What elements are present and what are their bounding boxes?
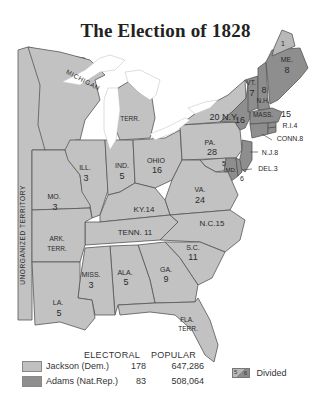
label-fla-terr: TERR.: [178, 325, 198, 332]
label-nc: N.C.15: [200, 219, 225, 228]
label-sc: S.C.: [186, 244, 200, 251]
label-me-jackson: 1: [281, 40, 285, 47]
label-ala: ALA.: [117, 269, 132, 276]
legend-popular: 508,064: [152, 376, 204, 386]
jackson-swatch: [22, 361, 42, 372]
label-ga-ev: 9: [163, 274, 168, 284]
label-md: MD.: [226, 167, 237, 173]
label-vt-ev: 7: [249, 88, 254, 98]
label-ri: R.I.4: [283, 122, 298, 129]
divided-swatch: 5 6: [232, 368, 250, 378]
label-ark: ARK.: [49, 235, 64, 242]
label-ark-terr: TERR.: [47, 245, 67, 252]
label-michigan-terr: TERR.: [120, 115, 140, 122]
label-sc-ev: 11: [188, 252, 197, 262]
adams-swatch: [22, 376, 42, 387]
label-va: VA.: [195, 186, 206, 193]
legend-electoral: 178: [122, 361, 146, 371]
label-del: DEL.3: [258, 165, 278, 172]
divided-swatch-a: 5: [234, 369, 237, 375]
legend-name: Jackson (Dem.): [46, 361, 109, 371]
label-ind: IND.: [115, 162, 129, 169]
label-ga: GA.: [160, 266, 172, 273]
label-nh: N.H.: [257, 97, 270, 104]
label-md-adams: 6: [240, 175, 244, 182]
us-map-1828: UNORGANIZED TERRITORY MICHIGAN TERR. 1 M…: [0, 0, 331, 402]
label-mass-ev: 15: [281, 109, 291, 119]
label-ill: ILL.: [79, 164, 91, 171]
label-miss-ev: 3: [88, 280, 93, 290]
label-unorganized-territory: UNORGANIZED TERRITORY: [19, 185, 26, 285]
label-ind-ev: 5: [119, 171, 124, 181]
label-fla: FLA.: [180, 316, 194, 323]
label-mo: MO.: [47, 193, 60, 200]
label-conn: CONN.8: [277, 135, 304, 142]
legend-divided: 5 6 Divided: [232, 367, 287, 378]
legend-col-popular: POPULAR: [151, 350, 196, 360]
label-la: LA.: [53, 299, 64, 306]
label-ala-ev: 5: [123, 277, 128, 287]
label-vt: VT.: [246, 79, 256, 86]
label-ny-adams: 16: [235, 115, 245, 125]
label-la-ev: 5: [56, 308, 61, 318]
legend-col-electoral: ELECTORAL: [84, 350, 140, 360]
legend-electoral: 83: [122, 376, 146, 386]
label-tenn: TENN. 11: [118, 228, 153, 237]
divided-label: Divided: [257, 368, 287, 378]
label-pa: PA.: [205, 139, 216, 146]
label-nj: N.J.8: [262, 149, 278, 156]
legend-name: Adams (Nat.Rep.): [46, 376, 118, 386]
label-va-ev: 24: [195, 195, 205, 205]
label-nh-ev: 8: [261, 85, 266, 95]
label-me-ev: 8: [284, 65, 289, 75]
legend-header: ELECTORAL POPULAR: [84, 350, 196, 360]
label-miss: MISS.: [81, 271, 100, 278]
label-mass: MASS.: [253, 111, 273, 118]
label-me: ME.: [281, 56, 294, 63]
label-md-jackson: 5: [222, 160, 226, 167]
label-ill-ev: 3: [83, 173, 88, 183]
divided-swatch-b: 6: [244, 370, 247, 376]
legend-popular: 647,286: [152, 361, 204, 371]
label-ohio: OHIO: [147, 157, 165, 164]
label-ky: KY.14: [134, 205, 155, 214]
label-mo-ev: 3: [52, 202, 57, 212]
label-ohio-ev: 16: [152, 165, 162, 175]
label-pa-ev: 28: [207, 147, 217, 157]
